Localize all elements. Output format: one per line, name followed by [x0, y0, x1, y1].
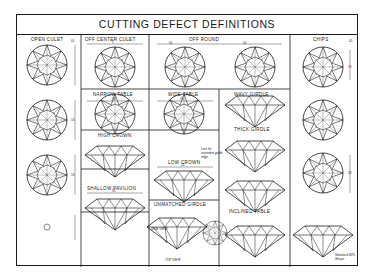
dim-off-center: 5 [112, 40, 114, 44]
label-inclined-table: INCLINED TABLE [229, 209, 270, 214]
note-extended-girdle: Line for extended girdle edge [201, 147, 223, 159]
dim-shallow-pavilion: 35 [112, 189, 115, 193]
dim-open-culet-3: 16 [71, 173, 74, 177]
label-chips: CHIPS [313, 37, 329, 42]
label-high-crown: HIGH CROWN [98, 133, 132, 138]
label-off-center-culet: OFF CENTER CULET [85, 37, 135, 42]
label-open-culet: OPEN CULET [31, 37, 63, 42]
dim-wide-table: 70 [180, 97, 183, 101]
dim-open-culet-2: 16 [71, 118, 74, 122]
chart-drawing [17, 15, 359, 267]
dim-chips-3: 20 [348, 171, 351, 175]
dim-off-round-2: 02 [243, 41, 246, 45]
note-standard: Standard 90% Shape [335, 253, 357, 261]
label-thick-girdle: THICK GIRDLE [234, 127, 270, 132]
dim-low-crown: 10 [181, 163, 184, 167]
dim-chips-2: 19 [348, 65, 351, 69]
dim-off-round-1: 05 [169, 41, 172, 45]
label-wavy-girdle: WAVY GIRDLE [234, 92, 269, 97]
defect-chart: CUTTING DEFECT DEFINITIONS [16, 14, 358, 266]
dim-open-culet-1: 05 [71, 39, 74, 43]
label-top-view: TOP VIEW [165, 258, 180, 262]
label-side-view: SIDE VIEW [151, 227, 167, 231]
dim-chips-1: 05 [349, 39, 352, 43]
label-unmatched-girdle: UNMATCHED GIRDLE [154, 202, 206, 207]
dim-narrow-table: 56 [112, 97, 115, 101]
label-off-round: OFF ROUND [189, 37, 219, 42]
